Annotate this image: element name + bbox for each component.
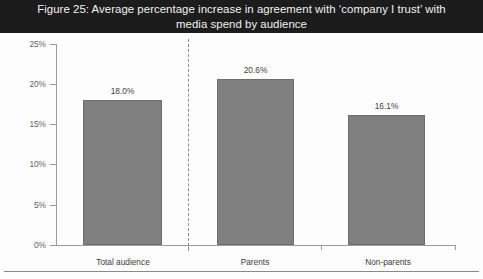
y-tick-mark-0 [50, 245, 56, 246]
plot-area: 0% 5% 10% 15% 20% 25% 18.0% 20.6% 16.1% … [0, 33, 483, 279]
category-divider-line [188, 39, 189, 251]
x-axis-line [56, 245, 456, 246]
x-category-label-non-parents: Non-parents [326, 257, 450, 267]
x-tick-mark-2 [321, 245, 322, 250]
footer-divider-rule [4, 271, 479, 272]
y-tick-mark-15 [50, 124, 56, 125]
y-tick-label-0: 0% [6, 240, 46, 250]
figure-title-band: Figure 25: Average percentage increase i… [0, 0, 483, 33]
bar-non-parents [348, 115, 425, 245]
y-tick-label-20: 20% [6, 79, 46, 89]
x-category-label-parents: Parents [194, 257, 316, 267]
y-tick-mark-20 [50, 84, 56, 85]
bar-parents [217, 79, 294, 245]
y-tick-mark-10 [50, 164, 56, 165]
y-tick-label-15: 15% [6, 119, 46, 129]
bar-total-audience [83, 100, 162, 245]
x-category-label-total-audience: Total audience [62, 257, 184, 267]
bar-value-label-parents: 20.6% [217, 65, 294, 75]
y-tick-mark-25 [50, 44, 56, 45]
y-tick-label-5: 5% [6, 200, 46, 210]
bar-value-label-total-audience: 18.0% [83, 86, 162, 96]
figure-chart: Figure 25: Average percentage increase i… [0, 0, 483, 279]
y-tick-label-25: 25% [6, 39, 46, 49]
x-tick-mark-3 [455, 245, 456, 250]
page-title: Figure 25: Average percentage increase i… [26, 2, 457, 30]
bar-value-label-non-parents: 16.1% [348, 101, 425, 111]
y-tick-label-10: 10% [6, 159, 46, 169]
y-tick-mark-5 [50, 205, 56, 206]
y-axis-line [56, 44, 57, 246]
